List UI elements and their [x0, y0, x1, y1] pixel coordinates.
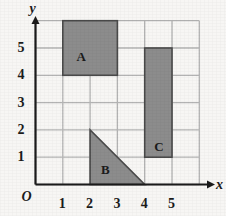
y-axis-arrowhead [32, 16, 40, 24]
x-tick-label-4: 4 [141, 197, 148, 211]
x-tick-label-1: 1 [59, 197, 66, 211]
x-axis-label: x [216, 178, 223, 192]
y-tick-label-4: 4 [18, 68, 25, 82]
coordinate-grid-figure: 1234512345yxOABC [0, 0, 226, 216]
x-tick-label-3: 3 [113, 197, 120, 211]
shape-label-b: B [101, 163, 110, 176]
x-axis-arrowhead [207, 181, 215, 189]
shape-label-a: A [76, 50, 85, 63]
y-tick-label-2: 2 [18, 123, 25, 137]
coordinate-plane-svg [0, 0, 226, 216]
shape-a [63, 21, 118, 76]
x-tick-label-5: 5 [168, 197, 175, 211]
y-tick-label-5: 5 [18, 41, 25, 55]
y-tick-label-1: 1 [18, 150, 25, 164]
y-tick-label-3: 3 [18, 96, 25, 110]
shape-label-c: C [154, 140, 163, 153]
x-tick-label-2: 2 [86, 197, 93, 211]
y-axis-label: y [30, 2, 36, 16]
origin-label: O [22, 190, 32, 204]
